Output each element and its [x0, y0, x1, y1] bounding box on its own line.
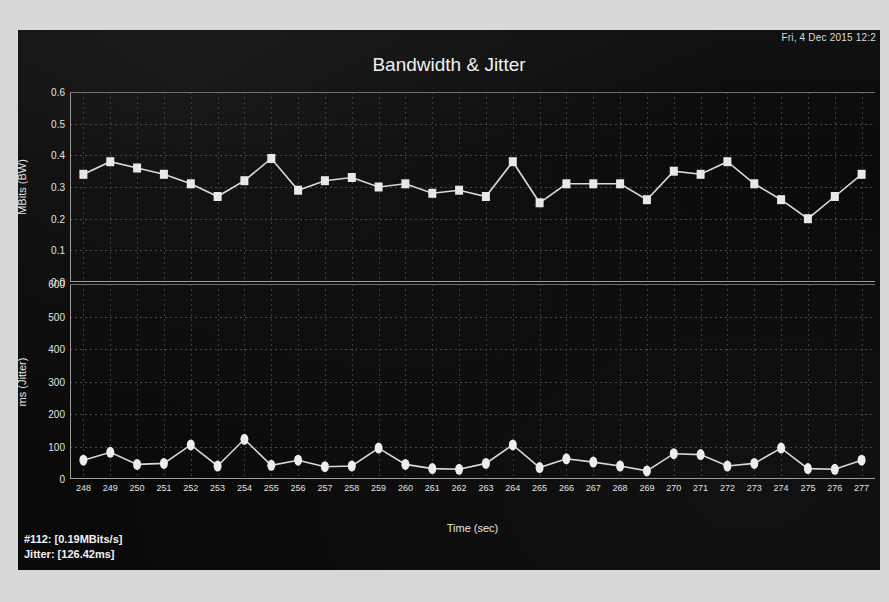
bandwidth-plot: MBits (BW) 0.00.10.20.30.40.50.6 — [70, 92, 875, 282]
jitter-y-tick-label: 200 — [48, 409, 65, 420]
x-axis-tick-label: 273 — [747, 483, 762, 493]
x-axis-tick-label: 276 — [827, 483, 842, 493]
x-axis-tick-label: 275 — [800, 483, 815, 493]
x-axis-tick-label: 254 — [237, 483, 252, 493]
bandwidth-y-tick-label: 0.2 — [51, 213, 65, 224]
bandwidth-y-tick-label: 0.5 — [51, 118, 65, 129]
x-axis-tick-label: 270 — [666, 483, 681, 493]
jitter-y-tick-label: 400 — [48, 344, 65, 355]
x-axis-tick-label: 268 — [613, 483, 628, 493]
x-axis-tick-label: 274 — [774, 483, 789, 493]
x-axis-tick-label: 250 — [130, 483, 145, 493]
x-axis-tick-label: 269 — [639, 483, 654, 493]
x-axis-tick-label: 259 — [371, 483, 386, 493]
x-axis-tick-label: 256 — [291, 483, 306, 493]
page-title: Bandwidth & Jitter — [18, 54, 880, 76]
bandwidth-axis-top — [70, 92, 875, 93]
x-axis-tick-label: 252 — [183, 483, 198, 493]
jitter-y-tick-label: 300 — [48, 376, 65, 387]
x-axis-tick-label: 258 — [344, 483, 359, 493]
jitter-y-tick-label: 500 — [48, 311, 65, 322]
bandwidth-y-tick-label: 0.3 — [51, 182, 65, 193]
bandwidth-y-tick-label: 0.1 — [51, 245, 65, 256]
x-axis-tick-label: 257 — [317, 483, 332, 493]
x-axis-title: Time (sec) — [70, 522, 875, 534]
jitter-y-tick-label: 600 — [48, 279, 65, 290]
x-axis-tick-label: 277 — [854, 483, 869, 493]
jitter-y-axis-title: ms (Jitter) — [18, 357, 28, 406]
x-axis-tick-label: 267 — [586, 483, 601, 493]
jitter-plot-frame — [70, 284, 875, 479]
x-axis-tick-label: 253 — [210, 483, 225, 493]
x-axis-tick-label: 255 — [264, 483, 279, 493]
jitter-y-tick-label: 100 — [48, 441, 65, 452]
x-axis-tick-label: 264 — [505, 483, 520, 493]
timestamp-label: Fri, 4 Dec 2015 12:2 — [781, 32, 876, 44]
jitter-y-tick-label: 0 — [59, 474, 65, 485]
status-readout: #112: [0.19MBits/s] Jitter: [126.42ms] — [24, 532, 122, 562]
status-jitter: Jitter: [126.42ms] — [24, 547, 122, 562]
chart-panel: Fri, 4 Dec 2015 12:2 Bandwidth & Jitter … — [18, 30, 880, 570]
x-axis-tick-label: 249 — [103, 483, 118, 493]
x-axis-tick-label: 272 — [720, 483, 735, 493]
x-axis-tick-label: 251 — [156, 483, 171, 493]
x-axis-tick-label: 266 — [559, 483, 574, 493]
bandwidth-y-axis-title: MBits (BW) — [18, 159, 28, 215]
jitter-axis-top — [70, 284, 875, 285]
x-axis-tick-label: 263 — [478, 483, 493, 493]
bandwidth-plot-frame — [70, 92, 875, 282]
jitter-plot: ms (Jitter) 0100200300400500600248249250… — [70, 284, 875, 479]
x-axis-tick-label: 262 — [452, 483, 467, 493]
x-axis-tick-label: 271 — [693, 483, 708, 493]
x-axis-tick-label: 260 — [398, 483, 413, 493]
bandwidth-y-tick-label: 0.6 — [51, 87, 65, 98]
x-axis-tick-label: 261 — [425, 483, 440, 493]
bandwidth-y-tick-label: 0.4 — [51, 150, 65, 161]
x-axis-tick-label: 248 — [76, 483, 91, 493]
status-bandwidth: #112: [0.19MBits/s] — [24, 532, 122, 547]
x-axis-tick-label: 265 — [532, 483, 547, 493]
